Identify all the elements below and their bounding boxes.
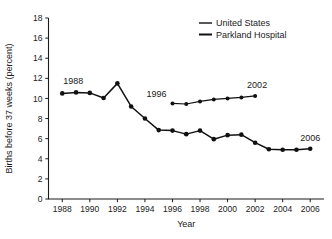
- x-tick-label: 2002: [246, 204, 265, 214]
- y-tick-label: 14: [33, 53, 43, 63]
- axis-titles: Births before 37 weeks (percent)Year: [4, 43, 195, 229]
- data-point: [74, 90, 79, 95]
- series-layer: [60, 81, 313, 152]
- data-point: [225, 133, 230, 138]
- y-tick-label: 0: [38, 194, 43, 204]
- chart-canvas: 024681012141618 198819901992199419961998…: [0, 0, 332, 239]
- data-point: [115, 81, 120, 86]
- annotation-2006: 2006: [300, 133, 320, 143]
- data-point: [156, 128, 161, 133]
- data-point: [212, 137, 217, 142]
- y-tick-label: 2: [38, 174, 43, 184]
- data-point: [184, 102, 188, 106]
- y-tick-label: 10: [33, 94, 43, 104]
- chart-legend: United StatesParkland Hospital: [199, 18, 287, 40]
- x-tick-label: 2006: [301, 204, 320, 214]
- y-tick-label: 16: [33, 33, 43, 43]
- y-tick-label: 12: [33, 73, 43, 83]
- x-tick-label: 1996: [163, 204, 182, 214]
- x-axis-title: Year: [177, 219, 195, 229]
- data-point: [253, 140, 258, 145]
- data-point: [129, 104, 134, 109]
- series-line-1: [62, 83, 310, 149]
- data-point: [308, 146, 313, 151]
- data-point: [170, 101, 174, 105]
- legend-label-1: Parkland Hospital: [216, 30, 287, 40]
- x-axis-ticks: 1988199019921994199619982000200220042006: [53, 199, 320, 214]
- x-tick-label: 2004: [273, 204, 292, 214]
- data-point: [294, 147, 299, 152]
- x-tick-label: 1992: [108, 204, 127, 214]
- data-point: [212, 97, 216, 101]
- x-tick-label: 1988: [53, 204, 72, 214]
- data-point: [239, 132, 244, 137]
- data-point: [60, 91, 65, 96]
- y-axis-ticks: 024681012141618: [33, 13, 48, 204]
- data-point: [198, 99, 202, 103]
- y-tick-label: 8: [38, 114, 43, 124]
- y-axis-title: Births before 37 weeks (percent): [4, 43, 14, 173]
- y-tick-label: 4: [38, 154, 43, 164]
- x-tick-label: 1990: [80, 204, 99, 214]
- data-point: [101, 96, 106, 101]
- x-tick-label: 1998: [191, 204, 210, 214]
- chart-container: 024681012141618 198819901992199419961998…: [0, 0, 332, 239]
- data-point: [184, 132, 189, 137]
- data-point: [143, 116, 148, 121]
- annotation-1988: 1988: [63, 76, 83, 86]
- plot-frame: [49, 18, 325, 199]
- data-point: [239, 95, 243, 99]
- x-tick-label: 2000: [218, 204, 237, 214]
- data-point: [198, 128, 203, 133]
- data-point: [88, 91, 93, 96]
- legend-label-0: United States: [216, 18, 271, 28]
- data-point: [170, 128, 175, 133]
- annotation-1996: 1996: [146, 89, 166, 99]
- y-tick-label: 6: [38, 134, 43, 144]
- y-tick-label: 18: [33, 13, 43, 23]
- data-point: [267, 147, 272, 152]
- data-point: [226, 96, 230, 100]
- annotation-2002: 2002: [247, 80, 267, 90]
- data-point: [280, 147, 285, 152]
- data-point: [253, 94, 257, 98]
- axis-spines: [49, 18, 325, 199]
- x-tick-label: 1994: [135, 204, 154, 214]
